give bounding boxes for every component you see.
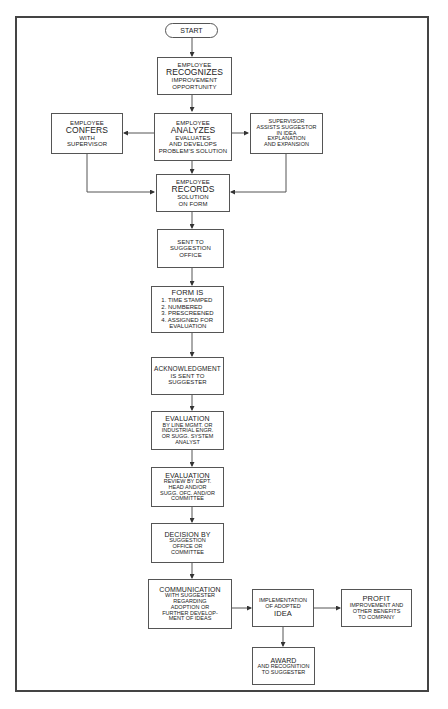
node-text: SUPERVISOR <box>67 141 107 147</box>
list-item: 1. TIME STAMPED <box>161 297 213 304</box>
form-steps-list: 1. TIME STAMPED 2. NUMBERED 3. PRESCREEN… <box>161 297 213 330</box>
node-text: SUGGESTER <box>168 379 207 385</box>
node-text: TO SUGGESTER <box>262 670 306 676</box>
node-text: RECOGNIZES <box>166 68 223 77</box>
node-communication: COMMUNICATION WITH SUGGESTER REGARDING A… <box>148 579 232 629</box>
node-evaluation-1: EVALUATION BY LINE MGMT. OR INDUSTRIAL E… <box>151 411 224 450</box>
start-label: START <box>180 27 202 34</box>
list-item: 4. ASSIGNED FOR <box>161 317 213 324</box>
node-text: COMMITTEE <box>171 550 204 556</box>
node-form: FORM IS 1. TIME STAMPED 2. NUMBERED 3. P… <box>151 286 224 333</box>
node-text: ANALYZES <box>171 126 216 135</box>
node-text: PROBLEM'S SOLUTION <box>159 148 228 154</box>
start-terminal: START <box>165 23 218 38</box>
node-confers: EMPLOYEE CONFERS WITH SUPERVISOR <box>51 113 123 154</box>
node-text: OPPORTUNITY <box>172 84 216 90</box>
node-recognizes: EMPLOYEE RECOGNIZES IMPROVEMENT OPPORTUN… <box>157 57 232 95</box>
node-text: OFFICE <box>179 252 202 258</box>
node-text: COMMITTEE <box>171 496 204 502</box>
node-evaluation-2: EVALUATION REVIEW BY DEPT. HEAD AND/OR S… <box>151 467 224 507</box>
node-award: AWARD AND RECOGNITION TO SUGGESTER <box>252 647 315 685</box>
node-sent: SENT TO SUGGESTION OFFICE <box>157 229 224 268</box>
list-item: 2. NUMBERED <box>161 304 213 311</box>
node-text: AND EXPANSION <box>264 142 309 148</box>
node-implementation: IMPLEMENTATION OF ADOPTED IDEA <box>252 589 314 627</box>
list-item: EVALUATION <box>161 323 213 330</box>
node-analyzes: EMPLOYEE ANALYZES EVALUATES AND DEVELOPS… <box>154 113 232 161</box>
node-text: TO COMPANY <box>358 615 394 621</box>
node-text: FORM IS <box>172 289 204 297</box>
node-profit: PROFIT IMPROVEMENT AND OTHER BENEFITS TO… <box>341 589 412 627</box>
node-records: EMPLOYEE RECORDS SOLUTION ON FORM <box>156 174 230 212</box>
node-text: RECORDS <box>171 185 214 194</box>
node-text: ANALYST <box>175 440 200 446</box>
node-decision: DECISION BY SUGGESTION OFFICE OR COMMITT… <box>151 523 224 563</box>
node-text: IDEA <box>274 610 292 618</box>
list-item: 3. PRESCREENED <box>161 310 213 317</box>
node-acknowledgment: ACKNOWLEDGMENT IS SENT TO SUGGESTER <box>151 357 224 395</box>
node-text: CONFERS <box>66 126 108 135</box>
node-text: ON FORM <box>178 201 207 207</box>
node-supervisor: SUPERVISOR ASSISTS SUGGESTOR IN IDEA EXP… <box>250 113 323 154</box>
node-text: MENT OF IDEAS <box>169 616 212 622</box>
node-text: ACKNOWLEDGMENT <box>154 366 221 373</box>
